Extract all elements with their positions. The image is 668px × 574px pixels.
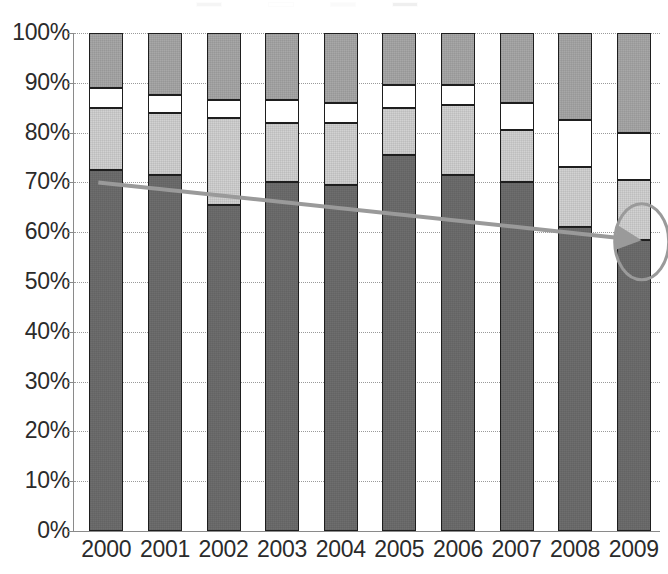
bar-segment-series4 (148, 33, 182, 95)
bar-column (265, 33, 299, 531)
legend-item (196, 2, 225, 7)
legend-item (268, 2, 297, 7)
bar-segment-series2 (441, 105, 475, 175)
y-axis-tick-label: 10% (4, 469, 70, 492)
bar-segment-series1 (265, 182, 299, 531)
bar-segment-series4 (265, 33, 299, 100)
bar-segment-series1 (441, 175, 475, 531)
bar-segment-series4 (324, 33, 358, 103)
bar-segment-series2 (382, 108, 416, 155)
bar-segment-series1 (148, 175, 182, 531)
bar-segment-series3 (500, 103, 534, 130)
bar-column (500, 33, 534, 531)
bar-segment-series4 (617, 33, 651, 133)
bar-segment-series3 (324, 103, 358, 123)
legend-swatch (196, 2, 222, 7)
y-axis-tick-label: 90% (4, 71, 70, 94)
y-axis-tick-label: 100% (4, 21, 70, 44)
bar-segment-series4 (558, 33, 592, 120)
x-axis-labels: 2000200120022003200420052006200720082009 (74, 534, 660, 568)
y-axis-tick-label: 60% (4, 220, 70, 243)
legend-item (330, 2, 359, 7)
bar-column (324, 33, 358, 531)
bar-segment-series1 (324, 185, 358, 531)
bar-segment-series3 (382, 85, 416, 107)
bar-segment-series1 (617, 240, 651, 531)
legend-cropped (0, 0, 668, 7)
y-axis-tick-label: 0% (4, 519, 70, 542)
bar-segment-series3 (558, 120, 592, 167)
bar-segment-series4 (441, 33, 475, 85)
bar-segment-series3 (148, 95, 182, 112)
bar-segment-series3 (441, 85, 475, 105)
bar-column (617, 33, 651, 531)
y-axis-tick-label: 30% (4, 370, 70, 393)
plot-area (74, 33, 660, 531)
bar-segment-series2 (89, 108, 123, 170)
bar-segment-series2 (558, 167, 592, 227)
legend-item (392, 2, 421, 7)
x-axis-tick-label: 2009 (599, 534, 668, 564)
bar-segment-series3 (265, 100, 299, 122)
bar-segment-series3 (617, 133, 651, 180)
legend-swatch (330, 2, 356, 7)
y-axis-tick-label: 70% (4, 170, 70, 193)
bar-segment-series2 (148, 113, 182, 175)
bar-column (89, 33, 123, 531)
bar-column (382, 33, 416, 531)
bar-segment-series1 (207, 205, 241, 531)
bar-segment-series2 (207, 118, 241, 205)
bar-segment-series3 (207, 100, 241, 117)
bar-segment-series3 (89, 88, 123, 108)
legend-swatch (392, 2, 418, 7)
stacked-bar-chart: 100%90%80%70%60%50%40%30%20%10%0% 200020… (0, 0, 668, 574)
axis-baseline (74, 531, 660, 532)
bar-column (441, 33, 475, 531)
y-axis-labels: 100%90%80%70%60%50%40%30%20%10%0% (0, 0, 70, 574)
bar-segment-series1 (500, 182, 534, 531)
y-axis-tick-label: 20% (4, 419, 70, 442)
bar-segment-series2 (617, 180, 651, 240)
legend-swatch (268, 2, 294, 7)
bar-segment-series2 (265, 123, 299, 183)
y-axis-tick-label: 80% (4, 121, 70, 144)
bar-segment-series2 (500, 130, 534, 182)
y-axis-tick-label: 40% (4, 320, 70, 343)
bar-segment-series1 (89, 170, 123, 531)
bar-segment-series1 (558, 227, 592, 531)
bar-segment-series4 (207, 33, 241, 100)
bar-segment-series4 (500, 33, 534, 103)
bar-column (207, 33, 241, 531)
y-axis-tick-label: 50% (4, 270, 70, 293)
bar-segment-series2 (324, 123, 358, 185)
bar-column (148, 33, 182, 531)
bar-column (558, 33, 592, 531)
bar-segment-series1 (382, 155, 416, 531)
bar-segment-series4 (89, 33, 123, 88)
bar-segment-series4 (382, 33, 416, 85)
